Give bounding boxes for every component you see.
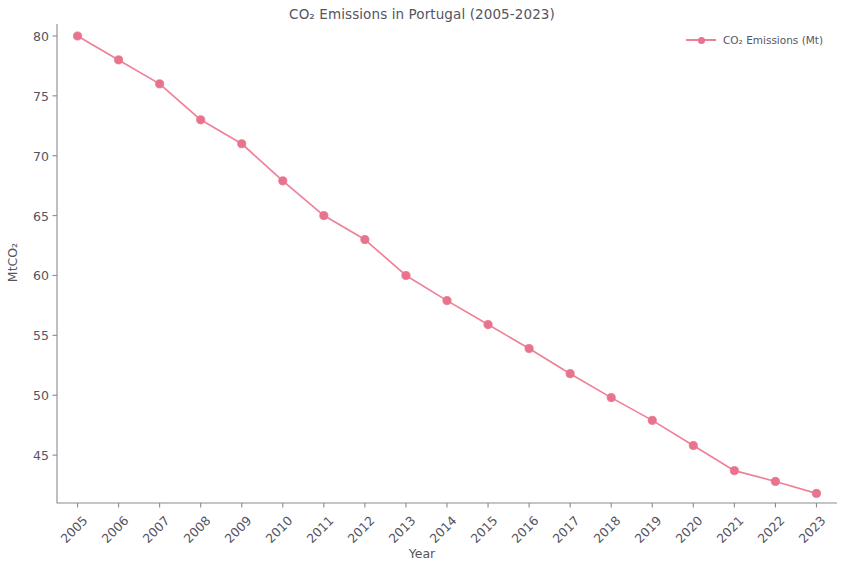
data-point-marker bbox=[279, 177, 287, 185]
data-point-marker bbox=[402, 271, 410, 279]
data-point-marker bbox=[73, 32, 81, 40]
data-point-marker bbox=[484, 320, 492, 328]
data-point-marker bbox=[238, 140, 246, 148]
data-point-marker bbox=[114, 56, 122, 64]
data-point-marker bbox=[525, 344, 533, 352]
data-point-marker bbox=[771, 477, 779, 485]
chart-figure: CO₂ Emissions in Portugal (2005-2023) CO… bbox=[0, 0, 844, 567]
data-point-marker bbox=[730, 467, 738, 475]
data-point-marker bbox=[812, 489, 820, 497]
data-point-marker bbox=[607, 394, 615, 402]
data-point-marker bbox=[648, 416, 656, 424]
data-point-marker bbox=[197, 116, 205, 124]
plot-canvas bbox=[0, 0, 844, 567]
data-point-marker bbox=[443, 297, 451, 305]
data-point-marker bbox=[566, 370, 574, 378]
data-point-marker bbox=[689, 441, 697, 449]
series-line-co2-emissions bbox=[78, 36, 817, 493]
data-point-marker bbox=[361, 235, 369, 243]
data-point-marker bbox=[156, 80, 164, 88]
data-point-marker bbox=[320, 212, 328, 220]
